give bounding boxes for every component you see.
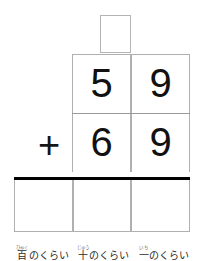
place-label-ones: いち 一 のくらい <box>133 236 194 261</box>
second-addend-ones-digit: 9 <box>149 122 171 162</box>
plus-operator: + <box>34 126 64 164</box>
ruby-ones: いち 一 <box>139 246 149 261</box>
first-addend-tens-digit: 5 <box>90 63 112 103</box>
carry-box-tens[interactable] <box>100 15 131 53</box>
kanji-ones: 一 <box>139 251 149 261</box>
answer-grid <box>14 180 190 232</box>
first-addend-ones-digit: 9 <box>149 63 171 103</box>
first-addend-tens-cell: 5 <box>72 55 131 113</box>
place-label-hundreds: ひゃく 百 のくらい <box>12 236 73 261</box>
kanji-tens: 十 <box>78 251 88 261</box>
second-addend-row: 6 9 <box>72 113 190 172</box>
kanji-hundreds: 百 <box>17 251 27 261</box>
place-label-tens-suffix: のくらい <box>89 251 129 261</box>
worksheet-canvas: 5 9 6 9 + ひゃく 百 のくらい <box>0 0 201 261</box>
first-addend-row: 5 9 <box>72 54 190 113</box>
ruby-tens: じゅう 十 <box>77 246 90 261</box>
place-label-ones-suffix: のくらい <box>149 251 189 261</box>
answer-cell-tens[interactable] <box>73 180 132 231</box>
ruby-hundreds: ひゃく 百 <box>16 246 29 261</box>
answer-cell-hundreds[interactable] <box>14 180 73 231</box>
place-label-hundreds-suffix: のくらい <box>29 251 69 261</box>
answer-cell-ones[interactable] <box>131 180 190 231</box>
place-value-labels: ひゃく 百 のくらい じゅう 十 のくらい いち 一 のくらい <box>12 236 194 261</box>
first-addend-ones-cell: 9 <box>131 55 190 113</box>
place-label-tens: じゅう 十 のくらい <box>73 236 134 261</box>
second-addend-tens-digit: 6 <box>90 122 112 162</box>
operand-grid: 5 9 6 9 <box>72 54 190 178</box>
second-addend-ones-cell: 9 <box>131 114 190 172</box>
second-addend-tens-cell: 6 <box>72 114 131 172</box>
